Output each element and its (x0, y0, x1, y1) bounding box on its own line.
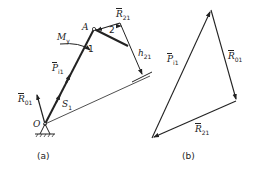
h21-label: h21 (138, 49, 151, 60)
pi1-sub: i1 (58, 68, 63, 75)
r01-symbol: R (18, 95, 25, 104)
point-o-label: O (33, 120, 40, 129)
r21-symbol-b: R (195, 125, 202, 134)
r21-label-b: R21 (195, 125, 209, 136)
figure-a-mechanism (35, 23, 152, 137)
r01-label-b: R01 (228, 52, 242, 63)
r01-label-a: R01 (18, 95, 32, 106)
point-a-label: A (82, 23, 89, 32)
diagram-lines (0, 0, 255, 172)
pi1-sub-b: i1 (173, 59, 178, 66)
r21-sub-b: 21 (202, 129, 210, 136)
force-analysis-figure: A O 1 2 R21 h21 My Pi1 R01 S1 (a) Pi1 R0… (0, 0, 255, 172)
caption-b: (b) (182, 152, 195, 161)
r21-sub: 21 (123, 14, 131, 21)
r01-sub-b: 01 (235, 56, 243, 63)
link-2-label: 2 (109, 26, 115, 35)
pi1-symbol: P (52, 64, 58, 73)
h21-sub: 21 (144, 53, 152, 60)
caption-a: (a) (37, 152, 50, 161)
pi1-symbol-b: P (167, 55, 173, 64)
figure-b-force-polygon (152, 10, 236, 138)
my-symbol: M (57, 32, 66, 42)
r01-sub: 01 (25, 99, 33, 106)
r21-symbol: R (116, 10, 123, 19)
s1-sub: 1 (68, 104, 72, 111)
r21-label-a: R21 (116, 10, 130, 21)
my-sub: y (66, 37, 70, 44)
pi1-label-a: Pi1 (52, 64, 64, 75)
my-label: My (57, 33, 70, 44)
r01-symbol-b: R (228, 52, 235, 61)
pi1-label-b: Pi1 (167, 55, 179, 66)
link-1-label: 1 (88, 45, 94, 54)
s1-label: S1 (62, 100, 72, 111)
